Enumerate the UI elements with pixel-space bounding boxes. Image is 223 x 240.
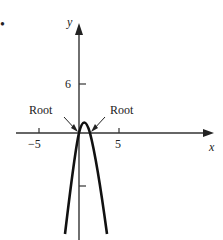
y-axis-arrow-icon — [75, 23, 83, 35]
parabola-curve — [65, 123, 107, 235]
y-tick-6: 6 — [65, 78, 71, 90]
y-axis-label: y — [67, 16, 72, 28]
chart: • y 6 Root Root −5 5 x — [0, 0, 223, 240]
x-tick-neg5: −5 — [28, 138, 41, 150]
root-label-left: Root — [29, 104, 52, 116]
plot-area — [0, 0, 223, 240]
root-label-right: Root — [110, 104, 133, 116]
x-tick-5: 5 — [115, 138, 121, 150]
x-axis-label: x — [209, 141, 214, 153]
x-axis-arrow-icon — [203, 129, 214, 137]
